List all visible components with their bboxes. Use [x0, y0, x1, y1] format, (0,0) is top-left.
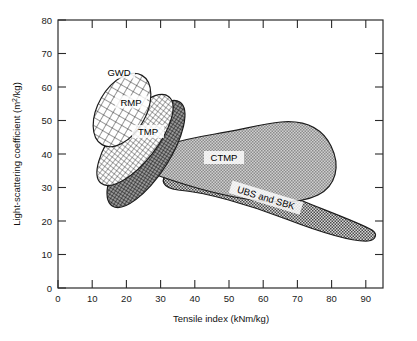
x-tick-label: 50: [224, 293, 235, 304]
region-label-gwd-text: GWD: [107, 67, 130, 78]
x-tick-label: 0: [55, 293, 60, 304]
x-tick-label: 90: [361, 293, 372, 304]
x-tick-label: 80: [326, 293, 337, 304]
x-tick-label: 40: [190, 293, 201, 304]
y-tick-label: 20: [41, 216, 52, 227]
region-label-rmp-text: RMP: [120, 97, 141, 108]
y-tick-label: 50: [41, 115, 52, 126]
y-tick-label: 80: [41, 15, 52, 26]
region-label-ctmp: CTMP: [204, 151, 244, 164]
y-tick-labels: 0 10 20 30 40 50 60 70 80: [41, 15, 52, 294]
x-tick-label: 70: [292, 293, 303, 304]
x-tick-label: 30: [155, 293, 166, 304]
region-label-tmp: TMP: [132, 125, 164, 138]
region-label-rmp: RMP: [115, 96, 147, 109]
x-tick-label: 20: [121, 293, 132, 304]
y-axis-title-prefix: Light-scattering coefficient (m: [11, 102, 22, 226]
y-tick-label: 40: [41, 149, 52, 160]
y-axis-title-suffix: /kg): [11, 82, 22, 98]
y-tick-label: 70: [41, 48, 52, 59]
region-label-gwd: GWD: [103, 66, 135, 79]
y-tick-label: 0: [47, 283, 52, 294]
x-axis-title: Tensile index (kNm/kg): [173, 313, 269, 324]
chart-svg: 0 10 20 30 40 50 60 70 80: [0, 0, 417, 341]
y-axis-title: Light-scattering coefficient (m2/kg): [11, 82, 23, 226]
y-tick-label: 30: [41, 182, 52, 193]
svg-text:Light-scattering coefficient (: Light-scattering coefficient (m2/kg): [11, 82, 23, 226]
x-tick-label: 60: [258, 293, 269, 304]
chart-figure: 0 10 20 30 40 50 60 70 80: [0, 0, 417, 341]
region-label-tmp-text: TMP: [138, 126, 158, 137]
y-tick-label: 10: [41, 249, 52, 260]
region-label-ctmp-text: CTMP: [211, 152, 238, 163]
y-tick-label: 60: [41, 82, 52, 93]
x-tick-label: 10: [87, 293, 98, 304]
